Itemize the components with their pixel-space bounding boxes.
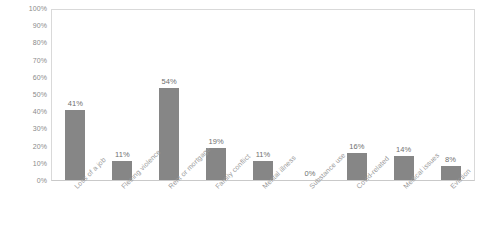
bars-layer: 41%11%54%19%11%0%16%14%8% — [52, 9, 474, 180]
y-axis-tick-label: 80% — [0, 39, 47, 47]
bar-value-label: 19% — [193, 137, 240, 146]
y-axis-tick-label: 40% — [0, 108, 47, 116]
x-axis-tick: Eviction — [427, 182, 474, 251]
x-axis-tick: Medical issues — [380, 182, 427, 251]
bar-group: 11% — [99, 9, 146, 180]
y-axis-tick-label: 70% — [0, 57, 47, 65]
y-axis-tick-label: 10% — [0, 160, 47, 168]
y-axis-tick-label: 60% — [0, 74, 47, 82]
y-axis-tick-label: 0% — [0, 177, 47, 185]
y-axis: 0%10%20%30%40%50%60%70%80%90%100% — [0, 9, 47, 181]
bar-group: 41% — [52, 9, 99, 180]
y-axis-tick-label: 90% — [0, 22, 47, 30]
x-axis-tick: Substance use — [286, 182, 333, 251]
y-axis-tick-label: 100% — [0, 5, 47, 13]
bar-chart: 0%10%20%30%40%50%60%70%80%90%100% 41%11%… — [0, 0, 487, 251]
x-axis-tick: Covid-related — [333, 182, 380, 251]
bar-value-label: 14% — [380, 145, 427, 154]
y-axis-tick-label: 30% — [0, 125, 47, 133]
y-axis-tick-label: 20% — [0, 143, 47, 151]
bar-value-label: 54% — [146, 77, 193, 86]
x-axis-tick: Rent or mortgage — [146, 182, 193, 251]
bar-group: 14% — [380, 9, 427, 180]
x-axis-tick: Loss of a job — [52, 182, 99, 251]
bar-value-label: 41% — [52, 99, 99, 108]
bar — [159, 88, 179, 180]
bar-value-label: 16% — [333, 142, 380, 151]
x-axis-tick: Fleeing violence — [99, 182, 146, 251]
y-axis-tick-label: 50% — [0, 91, 47, 99]
x-axis-tick: Family conflict — [193, 182, 240, 251]
x-axis-tick: Mental illness — [240, 182, 287, 251]
bar — [65, 110, 85, 180]
bar-value-label: 11% — [99, 150, 146, 159]
x-axis: Loss of a jobFleeing violenceRent or mor… — [52, 182, 474, 251]
